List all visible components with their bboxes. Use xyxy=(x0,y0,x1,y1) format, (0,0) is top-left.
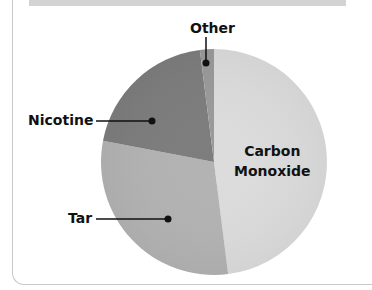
other-callout-dot xyxy=(203,60,210,67)
nicotine-callout-dot xyxy=(149,118,156,125)
label-co-line2: Monoxide xyxy=(234,161,310,181)
label-nicotine: Nicotine xyxy=(28,112,93,128)
label-tar: Tar xyxy=(68,210,92,226)
label-carbon-monoxide: Carbon Monoxide xyxy=(234,141,310,181)
tar-callout-dot xyxy=(165,216,172,223)
label-co-line1: Carbon xyxy=(234,141,310,161)
label-other: Other xyxy=(190,20,235,36)
